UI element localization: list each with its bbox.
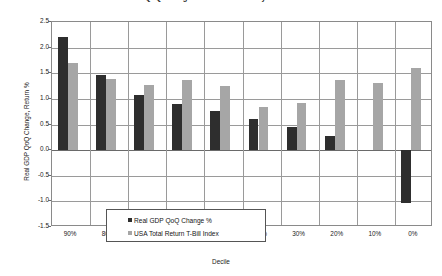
bar-group	[357, 22, 395, 225]
bar-series-1	[106, 79, 116, 150]
legend-item-series-1: USA Total Return T-Bill Index	[134, 231, 219, 238]
x-tick-label: 0%	[394, 231, 432, 237]
y-tick-label: -1.5	[5, 223, 49, 229]
y-tick-label: -0.5	[5, 172, 49, 178]
bar-group	[281, 22, 319, 225]
bar-series-0	[58, 37, 68, 150]
bar-series-1	[182, 80, 192, 150]
bar-series-1	[297, 103, 307, 150]
bar-series-1	[68, 63, 78, 150]
y-tick-label: 0.0	[5, 146, 49, 152]
bar-series-0	[210, 111, 220, 150]
bar-series-1	[220, 86, 230, 151]
bar-series-0	[287, 127, 297, 150]
chart-legend: Real GDP QoQ Change % USA Total Return T…	[106, 209, 266, 242]
y-tick-label: 1.5	[5, 69, 49, 75]
bar-group	[52, 22, 90, 225]
bar-series-0	[134, 95, 144, 150]
bar-group	[243, 22, 281, 225]
y-tick-label: 1.0	[5, 95, 49, 101]
bar-group	[395, 22, 433, 225]
legend-label-series-0: Real GDP QoQ Change %	[134, 217, 212, 224]
x-tick-label: 30%	[280, 231, 318, 237]
plot-area: Real GDP QoQ Change % USA Total Return T…	[51, 21, 432, 226]
legend-swatch-icon-series-1	[128, 231, 132, 235]
bar-group	[166, 22, 204, 225]
x-axis-title: Decile	[0, 258, 442, 265]
y-tick-label: 2.0	[5, 44, 49, 50]
bar-series-1	[411, 68, 421, 150]
y-tick-label: 0.5	[5, 121, 49, 127]
bar-series-1	[373, 83, 383, 150]
y-tick-label: 2.5	[5, 18, 49, 24]
bar-series-0	[325, 136, 335, 150]
legend-item-series-0: Real GDP QoQ Change %	[134, 218, 212, 225]
bar-group	[90, 22, 128, 225]
bar-group	[128, 22, 166, 225]
legend-label-series-1: USA Total Return T-Bill Index	[134, 230, 219, 237]
chart-container: Real GDP QoQ Change and Total Return by …	[0, 0, 442, 276]
bar-series-0	[249, 119, 259, 150]
chart-title: Real GDP QoQ Change and Total Return by …	[0, 0, 442, 2]
bar-series-1	[335, 80, 345, 150]
legend-swatch-icon-series-0	[128, 218, 132, 222]
bar-group	[319, 22, 357, 225]
bar-series-0	[96, 75, 106, 150]
bar-series-1	[259, 107, 269, 150]
bar-series-0	[172, 104, 182, 150]
plot-inner	[52, 22, 431, 225]
x-tick-label: 90%	[51, 231, 89, 237]
bar-group	[204, 22, 242, 225]
x-tick-label: 20%	[318, 231, 356, 237]
x-tick-label: 10%	[356, 231, 394, 237]
bar-series-0	[401, 150, 411, 203]
y-tick-mark	[48, 226, 51, 227]
y-tick-label: -1.0	[5, 197, 49, 203]
bar-series-1	[144, 85, 154, 150]
y-axis-title: Real GDP QoQ Change, Return %	[23, 62, 30, 202]
